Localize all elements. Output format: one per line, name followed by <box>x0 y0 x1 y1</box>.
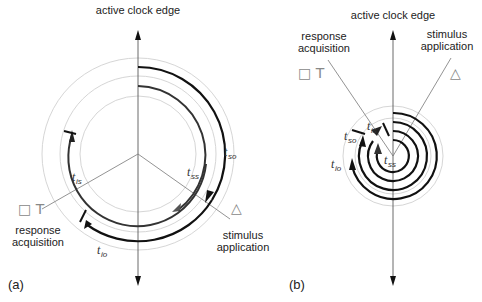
panel-label: (a) <box>8 277 24 292</box>
response-label-line2: acquisition <box>12 236 64 248</box>
response-line <box>42 154 138 209</box>
arc-tio <box>352 113 437 199</box>
clock-axis <box>135 30 141 286</box>
stimulus-label-line1: stimulus <box>223 229 264 241</box>
tick-tis <box>64 131 76 134</box>
panel-b: active clock edge t is t so <box>289 9 473 292</box>
svg-text:io: io <box>335 164 342 173</box>
panel-a: active clock edge t so t ss t is <box>8 4 269 292</box>
arrow-down-icon <box>135 276 141 286</box>
svg-text:io: io <box>101 250 108 259</box>
label-tso: t so <box>224 145 237 161</box>
svg-text:so: so <box>228 152 237 161</box>
svg-text:ss: ss <box>191 172 199 181</box>
stimulus-label-line1: stimulus <box>427 28 468 40</box>
clock-axis <box>390 30 396 286</box>
label-tio: t io <box>331 157 342 173</box>
timing-diagram: active clock edge t so t ss t is <box>0 0 482 302</box>
tick-tio <box>80 210 86 222</box>
response-label-line2: acquisition <box>298 42 350 54</box>
svg-text:so: so <box>348 136 357 145</box>
response-line <box>328 60 393 156</box>
arrow-down-icon <box>390 276 396 286</box>
stimulus-label-line2: application <box>217 241 270 253</box>
response-label-line1: response <box>301 30 346 42</box>
arrow-up-icon <box>135 30 141 40</box>
stimulus-symbol: △ <box>450 65 461 81</box>
response-label-line1: response <box>15 224 60 236</box>
stimulus-symbol: △ <box>231 200 242 216</box>
spiral-arcs <box>352 113 437 199</box>
arrow-tss-icon <box>374 143 382 154</box>
label-tis: t is <box>72 170 82 186</box>
label-tis: t is <box>367 119 377 135</box>
arrow-up-icon <box>390 30 396 40</box>
axis-label: active clock edge <box>351 9 435 21</box>
label-tss: t ss <box>384 153 396 169</box>
axis-label: active clock edge <box>96 4 180 16</box>
svg-text:is: is <box>76 177 82 186</box>
svg-text:is: is <box>371 126 377 135</box>
response-symbols: □ T <box>298 65 325 81</box>
arc-tis <box>68 135 206 226</box>
tick-tis <box>383 123 389 136</box>
stimulus-label-line2: application <box>421 40 474 52</box>
svg-text:ss: ss <box>388 160 396 169</box>
response-symbols: □ T <box>18 201 45 217</box>
panel-label: (b) <box>289 277 305 292</box>
label-tss: t ss <box>187 165 199 181</box>
arc-tio <box>86 200 212 241</box>
label-tio: t io <box>97 243 108 259</box>
